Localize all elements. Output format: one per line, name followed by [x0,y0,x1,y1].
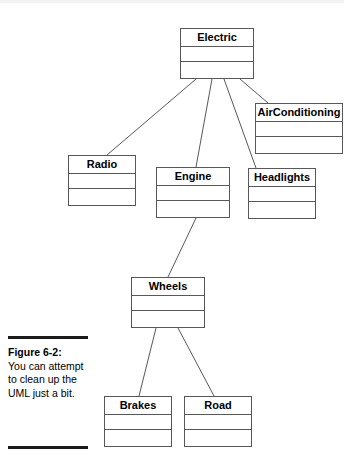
uml-class-brakes[interactable]: Brakes [104,396,172,447]
connector-electric-to-radio [107,79,196,155]
connector-wheels-to-road [178,328,214,396]
uml-operations-airconditioning [256,137,342,153]
caption-rule-bottom [8,446,88,449]
uml-operations-engine [157,201,229,217]
uml-class-name-engine: Engine [157,168,229,186]
uml-class-headlights[interactable]: Headlights [248,168,316,219]
uml-attributes-airconditioning [256,122,342,137]
uml-class-radio[interactable]: Radio [68,155,136,206]
connector-electric-to-engine [196,79,212,167]
uml-attributes-brakes [105,415,171,430]
uml-operations-brakes [105,430,171,446]
uml-operations-road [185,430,251,446]
figure-page: ElectricAirConditioningRadioEngineHeadli… [0,0,344,470]
uml-attributes-engine [157,186,229,201]
uml-class-name-radio: Radio [69,156,135,174]
uml-class-name-road: Road [185,397,251,415]
caption-label: Figure 6-2: [8,346,90,360]
uml-class-engine[interactable]: Engine [156,167,230,218]
uml-class-name-airconditioning: AirConditioning [256,104,342,122]
connector-electric-to-headlights [224,79,256,168]
uml-operations-electric [181,62,253,78]
uml-class-name-electric: Electric [181,29,253,47]
uml-attributes-wheels [132,296,204,311]
uml-class-airconditioning[interactable]: AirConditioning [255,103,343,154]
caption-body: You can attempt to clean up the UML just… [8,360,90,401]
caption-rule-top [8,336,88,339]
uml-attributes-headlights [249,187,315,202]
uml-operations-radio [69,189,135,205]
caption-text: Figure 6-2: You can attempt to clean up … [8,346,90,400]
uml-attributes-radio [69,174,135,189]
uml-class-name-wheels: Wheels [132,278,204,296]
figure-caption: Figure 6-2: You can attempt to clean up … [8,336,90,400]
uml-attributes-road [185,415,251,430]
uml-attributes-electric [181,47,253,62]
uml-operations-headlights [249,202,315,218]
uml-class-name-headlights: Headlights [249,169,315,187]
uml-class-wheels[interactable]: Wheels [131,277,205,328]
connector-wheels-to-brakes [139,328,156,396]
connector-electric-to-airconditioning [240,79,268,103]
uml-class-name-brakes: Brakes [105,397,171,415]
connector-engine-to-wheels [168,218,196,277]
uml-class-electric[interactable]: Electric [180,28,254,79]
uml-operations-wheels [132,311,204,327]
uml-class-road[interactable]: Road [184,396,252,447]
